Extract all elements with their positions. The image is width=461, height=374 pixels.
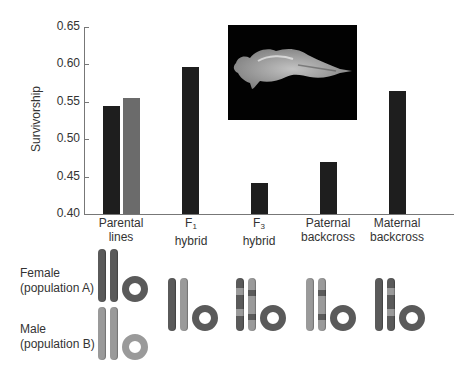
- y-tick: [84, 102, 89, 103]
- copepod-photo: [228, 25, 357, 120]
- y-tick: [84, 64, 89, 65]
- y-axis-label: Survivorship: [29, 69, 43, 169]
- chromosome-pop-b: [98, 307, 106, 360]
- mitochondrial-genome-pop-a-icon: [192, 305, 218, 331]
- chromosome-pop-a: [98, 249, 106, 302]
- bar-f3-hybrid: [251, 183, 268, 214]
- chromosome-pop-a: [168, 278, 176, 331]
- y-tick-label: 0.65: [44, 19, 80, 33]
- mitochondrial-genome-pop-a-icon: [122, 276, 148, 302]
- category-label-paternal: Paternal backcross: [288, 216, 368, 244]
- chromosome-pop-b: [110, 307, 118, 360]
- bar-maternal-backcross: [389, 91, 406, 214]
- chromosome-recombinant: [236, 278, 244, 331]
- chromosome-pop-a: [110, 249, 118, 302]
- y-tick-label: 0.60: [44, 56, 80, 70]
- bar-parental-population-b: [123, 98, 140, 214]
- mitochondrial-genome-pop-a-icon: [260, 305, 286, 331]
- category-label-maternal: Maternal backcross: [357, 216, 437, 244]
- chromosome-pop-b: [180, 278, 188, 331]
- y-axis-line: [84, 27, 85, 215]
- bar-parental-population-a: [103, 106, 120, 214]
- y-tick: [84, 27, 89, 28]
- bar-f1-hybrid: [182, 67, 199, 214]
- bar-paternal-backcross: [320, 162, 337, 214]
- chromosome-recombinant: [318, 278, 326, 331]
- mitochondrial-genome-pop-a-icon: [399, 305, 425, 331]
- chromosome-pop-a: [375, 278, 383, 331]
- chromosome-recombinant: [387, 278, 395, 331]
- y-tick: [84, 177, 89, 178]
- female-row-label: Female (population A): [20, 266, 94, 296]
- y-tick: [84, 139, 89, 140]
- mitochondrial-genome-pop-a-icon: [330, 305, 356, 331]
- chromosome-recombinant: [248, 278, 256, 331]
- x-axis-line: [84, 214, 454, 215]
- y-tick-label: 0.40: [44, 206, 80, 220]
- y-tick-label: 0.45: [44, 169, 80, 183]
- category-label-f3: F3 hybrid: [219, 216, 299, 248]
- y-tick-label: 0.55: [44, 94, 80, 108]
- y-tick-label: 0.50: [44, 131, 80, 145]
- mitochondrial-genome-pop-b-icon: [122, 334, 148, 360]
- male-row-label: Male (population B): [20, 322, 95, 352]
- category-label-parental: Parental lines: [81, 216, 161, 244]
- chromosome-pop-b: [306, 278, 314, 331]
